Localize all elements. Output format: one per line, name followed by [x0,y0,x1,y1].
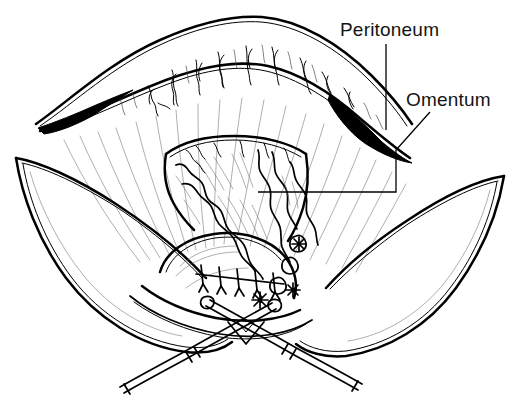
illustration-canvas: Peritoneum Omentum [0,0,519,403]
label-peritoneum: Peritoneum [340,19,439,40]
label-omentum: Omentum [406,89,491,110]
figure-background [0,0,519,403]
anatomical-figure: Peritoneum Omentum [0,0,519,403]
